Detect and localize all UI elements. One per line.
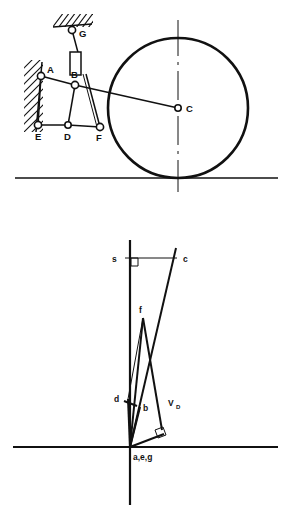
link-A-B: [41, 76, 75, 85]
label-pole-aeg: a,e,g: [133, 452, 152, 462]
label-point-f: f: [139, 305, 142, 315]
mechanism-panel: A B C D E F G: [15, 12, 278, 192]
joint-A: [37, 72, 44, 79]
joint-B: [71, 81, 78, 88]
right-angle-marker-s: [131, 258, 138, 266]
wall-support-left: [18, 46, 46, 162]
label-joint-A: A: [47, 64, 54, 75]
joint-E: [34, 121, 41, 128]
label-joint-D: D: [64, 131, 71, 142]
label-joint-E: E: [35, 131, 41, 142]
label-point-b: b: [143, 403, 148, 413]
label-velocity-vd-subscript: D: [176, 404, 181, 410]
label-joint-B: B: [71, 69, 78, 80]
label-point-d: d: [114, 394, 119, 404]
link-D-F: [68, 125, 100, 127]
engineering-figure: A B C D E F G: [0, 0, 291, 517]
vector-a-f: [130, 318, 143, 447]
figure-svg: A B C D E F G: [0, 0, 291, 517]
joint-G: [68, 26, 75, 33]
joint-D: [65, 122, 71, 128]
velocity-polygon-panel: s c f d b V D a,e,g: [13, 240, 278, 505]
ceiling-support-g: [52, 12, 100, 28]
label-point-c: c: [183, 254, 188, 264]
label-joint-G: G: [79, 28, 86, 39]
label-velocity-vd: V D: [168, 398, 181, 410]
joint-F: [96, 123, 103, 130]
label-point-s: s: [112, 254, 117, 264]
joint-C: [175, 105, 181, 111]
link-F-slider-edge: [83, 74, 97, 127]
link-D-B: [68, 85, 75, 125]
label-velocity-vd-main: V: [168, 398, 174, 408]
label-joint-F: F: [96, 132, 102, 143]
label-joint-C: C: [186, 103, 193, 114]
vector-VD: [130, 434, 164, 447]
link-F-slider: [86, 74, 100, 127]
